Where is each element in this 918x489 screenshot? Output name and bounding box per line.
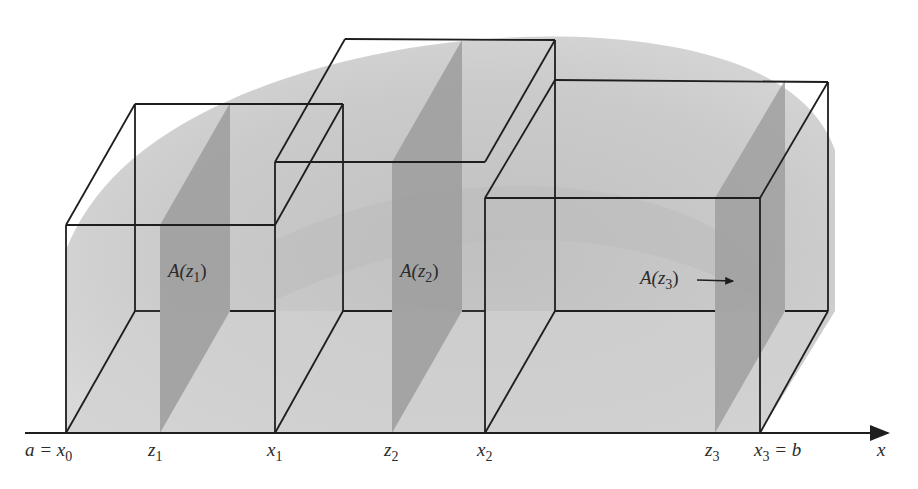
tick-label-x3-b: x3 = b (753, 439, 801, 464)
axis-labels: a = x0 z1 x1 z2 x2 z3 x3 = b x (25, 439, 886, 464)
axis-label-x: x (876, 439, 886, 460)
tick-label-z1: z1 (147, 439, 162, 464)
tick-label-z3: z3 (704, 439, 719, 464)
tick-label-x2: x2 (476, 439, 492, 464)
diagram-canvas: a = x0 z1 x1 z2 x2 z3 x3 = b x (0, 0, 918, 489)
tick-label-x0: a = x0 (25, 439, 72, 464)
riemann-volume-diagram: a = x0 z1 x1 z2 x2 z3 x3 = b x (0, 0, 918, 489)
tick-label-x1: x1 (266, 439, 282, 464)
tick-label-z2: z2 (383, 439, 398, 464)
